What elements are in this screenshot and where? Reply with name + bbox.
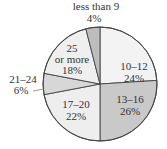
pie-chart: 10–12 24% 13–16 26% 17–20 22% 21–24 6% 2… [0,0,167,149]
label-17-20: 17–20 [62,98,90,110]
pct-17-20: 22% [66,110,86,122]
pct-10-12: 24% [124,72,144,84]
pct-13-16: 26% [120,105,140,117]
label-less-than-9: less than 9 [73,0,120,12]
leader-line-21-24 [33,89,44,91]
label-13-16: 13–16 [116,93,144,105]
pct-21-24: 6% [14,84,29,96]
pct-less-than-9: 4% [87,12,102,24]
pie-slices [43,27,157,141]
pct-25-or-more: 18% [62,64,82,76]
label-10-12: 10–12 [120,60,148,72]
